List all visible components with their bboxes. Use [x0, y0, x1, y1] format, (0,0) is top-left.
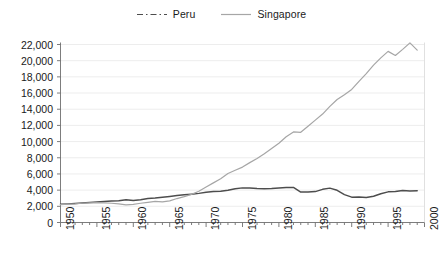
x-axis-tick-label: 1980 — [283, 206, 294, 229]
x-axis-tick-label: 1995 — [392, 206, 403, 229]
y-axis-tick-label: 22,000 — [0, 39, 53, 50]
y-axis-tick-label: 8,000 — [0, 153, 53, 164]
x-axis-tick-label: 2000 — [429, 206, 440, 229]
x-axis-tick-label: 1955 — [101, 206, 112, 229]
y-axis-tick-label: 2,000 — [0, 201, 53, 212]
y-axis-tick-label: 10,000 — [0, 136, 53, 147]
y-axis-tick-label: 14,000 — [0, 104, 53, 115]
x-axis-tick-label: 1960 — [137, 206, 148, 229]
y-axis-tick-label: 4,000 — [0, 185, 53, 196]
y-axis-tick-label: 18,000 — [0, 72, 53, 83]
plot-area: 02,0004,0006,0008,00010,00012,00014,0001… — [0, 0, 443, 270]
y-axis-tick-label: 20,000 — [0, 55, 53, 66]
x-axis-tick-label: 1990 — [356, 206, 367, 229]
chart-container: Peru Singapore 02,0004,0006,0008,00010,0… — [0, 0, 443, 270]
x-axis-ticks — [61, 223, 425, 228]
y-axis-tick-label: 0 — [0, 217, 53, 228]
series-line-singapore — [61, 43, 418, 205]
x-axis-tick-label: 1970 — [210, 206, 221, 229]
y-axis-tick-label: 6,000 — [0, 169, 53, 180]
x-axis-tick-label: 1950 — [65, 206, 76, 229]
data-series-group — [61, 43, 418, 205]
y-axis-ticks — [57, 45, 61, 223]
y-axis-tick-label: 12,000 — [0, 120, 53, 131]
x-axis-tick-label: 1975 — [247, 206, 258, 229]
x-axis-tick-label: 1965 — [174, 206, 185, 229]
y-axis-tick-label: 16,000 — [0, 88, 53, 99]
x-axis-tick-label: 1985 — [319, 206, 330, 229]
